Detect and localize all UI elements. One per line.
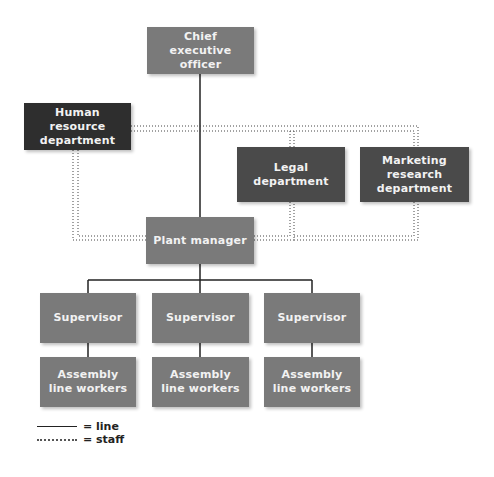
node-hr: Human resource department	[24, 103, 131, 150]
legend-line-label: = line	[83, 420, 119, 433]
node-marketing: Marketing research department	[360, 147, 469, 202]
node-marketing-label: Marketing research department	[359, 154, 470, 196]
node-supervisor-label: Supervisor	[54, 311, 123, 325]
legend: = line = staff	[37, 420, 124, 446]
legend-staff-label: = staff	[83, 433, 124, 446]
node-supervisor-label: Supervisor	[166, 311, 235, 325]
node-ceo: Chief executive officer	[147, 27, 254, 74]
node-workers-label: Assembly line workers	[152, 368, 249, 396]
node-plant-manager-label: Plant manager	[153, 234, 247, 248]
node-legal-label: Legal department	[237, 161, 345, 189]
node-workers-3: Assembly line workers	[264, 357, 360, 407]
node-supervisor-1: Supervisor	[40, 293, 136, 343]
node-hr-label: Human resource department	[24, 106, 131, 148]
node-legal: Legal department	[237, 147, 345, 202]
node-workers-label: Assembly line workers	[264, 368, 360, 396]
legend-staff: = staff	[37, 433, 124, 446]
node-workers-2: Assembly line workers	[152, 357, 249, 407]
node-workers-label: Assembly line workers	[40, 368, 136, 396]
dotted-line-icon	[37, 439, 77, 441]
solid-line-icon	[37, 426, 77, 427]
node-supervisor-3: Supervisor	[264, 293, 360, 343]
node-workers-1: Assembly line workers	[40, 357, 136, 407]
node-supervisor-2: Supervisor	[152, 293, 249, 343]
node-ceo-label: Chief executive officer	[147, 30, 254, 72]
node-supervisor-label: Supervisor	[278, 311, 347, 325]
legend-line: = line	[37, 420, 124, 433]
node-plant-manager: Plant manager	[146, 217, 254, 264]
